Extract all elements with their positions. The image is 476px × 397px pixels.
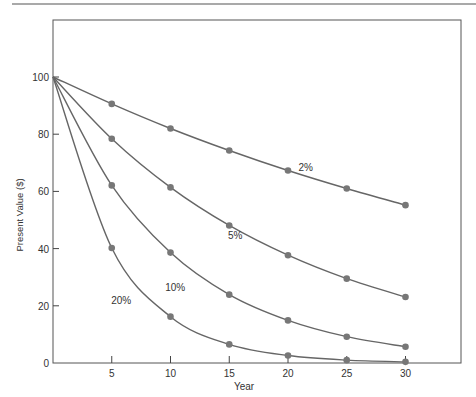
data-point: [167, 313, 174, 320]
y-axis: 020406080100: [32, 72, 59, 369]
y-tick-label: 0: [43, 358, 49, 369]
y-tick-label: 60: [38, 186, 50, 197]
data-point: [402, 294, 409, 301]
x-tick-label: 30: [400, 368, 412, 379]
x-tick-label: 20: [282, 368, 294, 379]
data-point: [285, 317, 292, 324]
data-point: [108, 101, 115, 108]
x-tick-label: 10: [165, 368, 177, 379]
data-point: [108, 135, 115, 142]
x-axis: 51015202530: [109, 356, 412, 379]
series-line-10pct: [53, 77, 406, 347]
x-tick-label: 15: [224, 368, 236, 379]
data-point: [402, 359, 409, 366]
y-tick-label: 80: [38, 129, 50, 140]
plot-frame: [53, 20, 461, 363]
y-tick-label: 100: [32, 72, 49, 83]
series-line-2pct: [53, 77, 406, 205]
data-point: [343, 185, 350, 192]
series-label: 10%: [165, 282, 185, 293]
data-point: [343, 333, 350, 340]
data-point: [167, 125, 174, 132]
data-point: [402, 343, 409, 350]
data-point: [285, 252, 292, 259]
data-point: [167, 249, 174, 256]
series-group: [53, 77, 409, 365]
data-point: [108, 245, 115, 252]
data-point: [226, 291, 233, 298]
data-point: [285, 167, 292, 174]
y-axis-title: Present Value ($): [14, 178, 25, 251]
y-tick-label: 20: [38, 301, 50, 312]
data-point: [108, 182, 115, 189]
series-label: 2%: [298, 162, 313, 173]
data-point: [226, 222, 233, 229]
data-point: [343, 357, 350, 364]
x-tick-label: 25: [341, 368, 353, 379]
series-label: 5%: [228, 230, 243, 241]
series-line-5pct: [53, 77, 406, 297]
y-tick-label: 40: [38, 244, 50, 255]
series-line-20pct: [53, 77, 406, 362]
x-axis-title: Year: [234, 381, 255, 392]
data-point: [226, 147, 233, 154]
data-point: [226, 341, 233, 348]
x-tick-label: 5: [109, 368, 115, 379]
data-point: [343, 275, 350, 282]
data-point: [167, 184, 174, 191]
series-label: 20%: [111, 295, 131, 306]
data-point: [402, 202, 409, 209]
data-point: [285, 352, 292, 359]
present-value-chart: 020406080100 51015202530 2%5%10%20% Year…: [0, 0, 476, 397]
